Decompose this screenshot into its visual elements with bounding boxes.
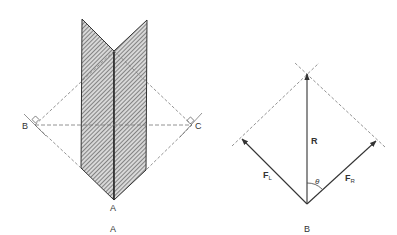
label-point-a: A [110, 203, 116, 213]
dashed-parallelogram [232, 63, 385, 147]
label-f-right: FR [345, 173, 356, 184]
label-theta: θ [315, 177, 320, 186]
panel-a: B C A A [22, 19, 202, 234]
figure: B C A A R FL FR θ B [0, 0, 397, 235]
label-point-c: C [195, 121, 202, 131]
right-hatched-strip [114, 20, 147, 200]
left-hatched-strip [81, 19, 114, 200]
vector-f-right [307, 141, 376, 204]
label-point-b: B [22, 121, 28, 131]
right-angle-mark-b [32, 116, 39, 123]
vector-f-left [242, 139, 307, 204]
panel-a-caption: A [110, 224, 116, 234]
panel-b-caption: B [304, 224, 310, 234]
label-r: R [311, 136, 318, 146]
label-f-left: FL [263, 170, 273, 181]
panel-b: R FL FR θ B [232, 63, 385, 234]
